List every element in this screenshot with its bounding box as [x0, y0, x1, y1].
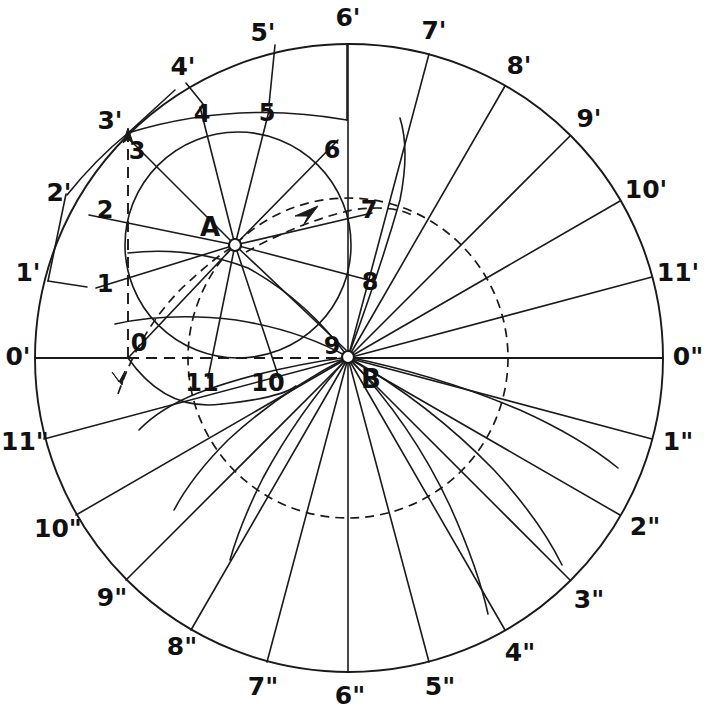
- label-outer-1pp: 1": [663, 427, 693, 456]
- label-outer-5pp: 5": [425, 672, 455, 701]
- generated-curves-lower-left: [139, 357, 348, 560]
- center-b-hub: [342, 351, 354, 363]
- generated-curves-lower-right: [348, 357, 618, 614]
- label-outer-3pp: 3": [574, 585, 604, 614]
- label-inner-10: 10: [251, 369, 284, 397]
- label-outer-7p: 7': [421, 16, 446, 45]
- label-outer-10pp: 10": [34, 514, 82, 543]
- label-outer-7pp: 7": [248, 672, 278, 701]
- label-center-b: B: [361, 364, 381, 394]
- outer-prime-labels: 0' 1' 2' 3' 4' 5' 6' 7' 8' 9' 10' 11': [5, 3, 699, 371]
- label-outer-2pp: 2": [630, 512, 660, 541]
- upper-left-construction-arcs: [48, 44, 347, 287]
- base-circle-spokes-lower: [44, 358, 652, 672]
- label-outer-5p: 5': [250, 18, 275, 47]
- center-a-hub: [229, 239, 241, 251]
- label-outer-8pp: 8": [167, 632, 197, 661]
- label-inner-5: 5: [259, 99, 276, 127]
- label-outer-11p: 11': [657, 258, 699, 287]
- label-center-a: A: [200, 212, 220, 242]
- label-inner-7: 7: [361, 196, 378, 224]
- label-inner-11: 11: [185, 369, 218, 397]
- label-inner-2: 2: [97, 196, 114, 224]
- label-outer-4pp: 4": [505, 638, 535, 667]
- label-inner-3: 3: [129, 137, 146, 165]
- label-outer-3p: 3': [97, 106, 122, 135]
- label-inner-9: 9: [324, 332, 341, 360]
- cycloid-construction-figure: A B 0' 1' 2' 3' 4' 5' 6' 7' 8' 9' 10' 11…: [0, 0, 707, 718]
- label-outer-8p: 8': [506, 51, 531, 80]
- base-circle-spokes-upper: [348, 44, 662, 358]
- label-outer-0p: 0': [5, 342, 30, 371]
- label-outer-9pp: 9": [97, 583, 127, 612]
- label-outer-1p: 1': [15, 258, 40, 287]
- label-outer-11pp: 11": [1, 427, 49, 456]
- cycloid-arrowhead-lower-icon: [112, 371, 125, 385]
- label-inner-1: 1: [97, 270, 114, 298]
- label-inner-8: 8: [362, 268, 379, 296]
- label-inner-6: 6: [324, 136, 341, 164]
- label-outer-2p: 2': [46, 178, 71, 207]
- label-outer-10p: 10': [625, 175, 667, 204]
- label-outer-6pp: 6": [335, 681, 365, 710]
- label-outer-0pp: 0": [673, 342, 703, 371]
- rotation-arc-dashed: [246, 208, 414, 252]
- diagram-root: A B 0' 1' 2' 3' 4' 5' 6' 7' 8' 9' 10' 11…: [0, 0, 707, 718]
- outer-double-prime-labels: 0" 1" 2" 3" 4" 5" 6" 7" 8" 9" 10" 11": [1, 342, 703, 710]
- label-inner-4: 4: [194, 100, 211, 128]
- label-inner-0: 0: [131, 329, 148, 357]
- label-outer-9p: 9': [576, 104, 601, 133]
- label-outer-6p: 6': [335, 3, 360, 32]
- label-outer-4p: 4': [170, 52, 195, 81]
